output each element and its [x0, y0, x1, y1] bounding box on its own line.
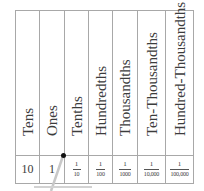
decimal-point-dot: [61, 153, 66, 158]
decimal-pointer-callout: [0, 0, 204, 191]
